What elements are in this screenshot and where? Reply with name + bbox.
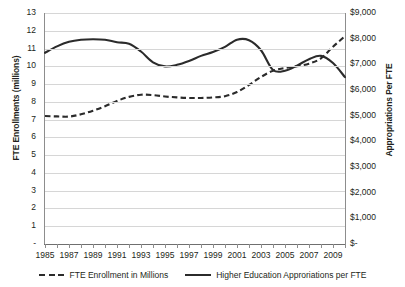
x-axis-tick-mark [141,244,142,248]
x-axis-tick-mark [213,244,214,248]
x-axis-tick-mark [69,244,70,248]
series-line-2 [45,39,345,77]
x-axis-tick-mark [117,244,118,248]
y-axis-left-tick-label: 9 [2,79,36,88]
y-axis-right-tick-label: $4,000 [350,136,394,145]
x-axis-tick-mark [201,244,202,248]
legend-label: FTE Enrollment in Millions [70,270,169,280]
plot-axis-line-bottom [44,244,346,245]
x-axis-tick-mark [321,244,322,248]
y-axis-left-tick-label: 2 [2,203,36,212]
y-axis-right-tick-label: $7,000 [350,59,394,68]
x-axis-tick-mark [285,244,286,248]
x-axis-tick-mark [249,244,250,248]
x-axis-tick-mark [93,244,94,248]
y-axis-left-tick-label: 3 [2,186,36,195]
gridline [45,226,345,227]
legend-item[interactable]: Higher Education Approriations per FTE [185,270,366,280]
legend-swatch-solid [185,274,211,276]
y-axis-left-tick-label: 5 [2,150,36,159]
gridline [45,49,345,50]
chart-legend: FTE Enrollment in MillionsHigher Educati… [0,265,405,285]
y-axis-right-tick-label: $8,000 [350,34,394,43]
gridline [45,31,345,32]
legend-label: Higher Education Approriations per FTE [216,270,366,280]
y-axis-left-tick-label: 6 [2,132,36,141]
y-axis-left-tick-label: 12 [2,26,36,35]
x-axis-tick-mark [105,244,106,248]
x-axis-tick-label: 2009 [319,250,347,260]
y-axis-left-tick-label: 4 [2,168,36,177]
y-axis-right-tick-label: $9,000 [350,8,394,17]
gridline [45,102,345,103]
y-axis-left-tick-label: - [2,239,36,248]
gridline [45,84,345,85]
gridline [45,191,345,192]
legend-item[interactable]: FTE Enrollment in Millions [39,270,169,280]
gridline [45,137,345,138]
x-axis-tick-mark [273,244,274,248]
gridline [45,155,345,156]
y-axis-right-ticks: $-$1,000$2,000$3,000$4,000$5,000$6,000$7… [350,0,396,287]
x-axis-tick-mark [177,244,178,248]
y-axis-right-tick-label: $1,000 [350,213,394,222]
legend-swatch-dashed [39,274,65,276]
y-axis-right-tick-label: $5,000 [350,111,394,120]
x-axis-tick-mark [45,244,46,248]
y-axis-left-tick-label: 7 [2,115,36,124]
y-axis-right-tick-label: $6,000 [350,85,394,94]
y-axis-left-tick-label: 13 [2,8,36,17]
gridline [45,66,345,67]
y-axis-right-tick-label: $3,000 [350,162,394,171]
x-axis-tick-mark [345,244,346,248]
y-axis-left-tick-label: 10 [2,61,36,70]
y-axis-left-ticks: -12345678910111213 [0,0,36,287]
y-axis-left-tick-label: 8 [2,97,36,106]
plot-axis-line-right [345,13,346,245]
x-axis-tick-mark [153,244,154,248]
x-axis-tick-mark [309,244,310,248]
gridline [45,208,345,209]
gridline [45,173,345,174]
gridline [45,120,345,121]
x-axis-tick-mark [225,244,226,248]
x-axis-tick-mark [261,244,262,248]
gridline [45,13,345,14]
x-axis-tick-mark [129,244,130,248]
x-axis-tick-mark [333,244,334,248]
x-axis-tick-mark [57,244,58,248]
y-axis-right-tick-label: $- [350,239,394,248]
chart-container: FTE Enrollments (millions) Appropriation… [0,0,405,287]
y-axis-right-tick-label: $2,000 [350,188,394,197]
x-axis-tick-mark [297,244,298,248]
y-axis-left-tick-label: 11 [2,44,36,53]
x-axis-tick-mark [189,244,190,248]
x-axis-tick-mark [165,244,166,248]
plot-area [45,13,345,244]
y-axis-left-tick-label: 1 [2,221,36,230]
x-axis-tick-mark [81,244,82,248]
x-axis-tick-mark [237,244,238,248]
